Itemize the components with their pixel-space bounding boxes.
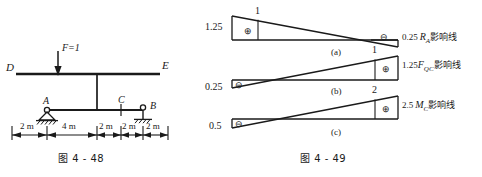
- figure-caption-4-48: 图 4 - 48: [58, 150, 104, 165]
- panel-c-label: (c): [331, 128, 341, 137]
- panel-a-sign-negative: ⊖: [380, 33, 388, 42]
- support-label-b: B: [150, 101, 156, 111]
- panel-a-sign-positive: ⊕: [244, 27, 252, 36]
- dimension-label-5: 2 m: [146, 122, 160, 131]
- panel-c-sign-negative: ⊖: [235, 120, 243, 129]
- panel-c-title: 2.5MC影响线: [402, 100, 455, 113]
- beam-node-label-e: E: [162, 60, 169, 71]
- panel-b-title-subscript: QC: [424, 65, 434, 73]
- panel-b-label: (b): [331, 87, 342, 96]
- panel-a-title-cn: 影响线: [430, 32, 457, 42]
- panel-a-title-num: 0.25: [402, 32, 418, 42]
- load-label: F=1: [62, 43, 80, 53]
- panel-b-title: 1.25FQC影响线: [402, 60, 461, 73]
- panel-b-sign-positive: ⊕: [382, 65, 390, 74]
- beam-node-label-d: D: [6, 62, 14, 73]
- panel-a-title: 0.25RA影响线: [402, 32, 457, 45]
- panel-c-title-symbol: M: [415, 99, 423, 110]
- panel-b-sign-negative: ⊖: [235, 81, 243, 90]
- panel-a-peak-value: 1: [255, 6, 260, 16]
- panel-c-sign-positive: ⊕: [382, 105, 390, 114]
- beam-de: [16, 74, 160, 110]
- panel-b-title-cn: 影响线: [434, 60, 461, 70]
- panel-c-title-cn: 影响线: [428, 100, 455, 110]
- panel-b-left-value: 0.25: [205, 82, 223, 92]
- dimension-chain: [12, 126, 168, 140]
- panel-a-left-value: 1.25: [205, 22, 223, 32]
- dimension-label-1: 2 m: [20, 122, 34, 131]
- figure-page: D E F=1 A C B 2 m 4 m 2 m 2 m 2 m 图 4 - …: [0, 0, 482, 177]
- load-arrow: [54, 51, 61, 76]
- panel-c-title-num: 2.5: [402, 100, 413, 110]
- support-label-a: A: [43, 96, 49, 106]
- panel-b-title-num: 1.25: [402, 60, 418, 70]
- influence-line-panel-c: [232, 96, 398, 128]
- influence-line-panel-a: [232, 16, 398, 47]
- dimension-label-4: 2 m: [122, 122, 136, 131]
- dimension-label-3: 2 m: [99, 122, 113, 131]
- section-label-c: C: [118, 95, 125, 105]
- panel-a-label: (a): [331, 48, 341, 57]
- panel-c-left-value: 0.5: [209, 121, 222, 131]
- panel-c-peak-value: 2: [372, 85, 377, 95]
- dimension-label-2: 4 m: [62, 122, 76, 131]
- panel-b-peak-value: 1: [372, 45, 377, 55]
- figure-caption-4-49: 图 4 - 49: [300, 150, 346, 165]
